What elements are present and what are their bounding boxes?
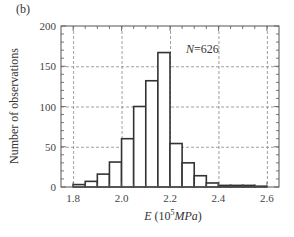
y-axis-label: Number of observations xyxy=(7,48,22,164)
y-tick-label: 150 xyxy=(40,60,57,72)
histogram-bar xyxy=(85,181,97,187)
x-tick-label: 2.4 xyxy=(212,192,226,204)
sample-size-annotation: N=626 xyxy=(186,42,219,57)
n-value: =626 xyxy=(194,42,219,56)
y-tick-label: 0 xyxy=(51,181,57,193)
x-axis-unit: MPa xyxy=(175,209,198,223)
x-tick-label: 1.8 xyxy=(66,192,80,204)
y-tick-label: 100 xyxy=(40,101,57,113)
histogram-bar xyxy=(158,53,170,187)
x-axis-unit-close: ) xyxy=(198,209,202,223)
histogram-chart: 1.82.02.22.42.6050100150200 xyxy=(0,0,294,237)
histogram-bar xyxy=(146,81,158,187)
x-tick-label: 2.2 xyxy=(163,192,177,204)
y-tick-label: 50 xyxy=(45,141,57,153)
x-axis-label: E (105MPa) xyxy=(144,208,202,224)
x-tick-label: 2.0 xyxy=(115,192,129,204)
x-axis-unit-prefix: (10 xyxy=(152,209,171,223)
histogram-bar xyxy=(109,162,121,187)
histogram-bar xyxy=(134,107,146,188)
histogram-bar xyxy=(206,183,218,187)
histogram-bar xyxy=(170,144,182,187)
histogram-bar xyxy=(97,174,109,187)
n-symbol: N xyxy=(186,42,194,56)
x-tick-label: 2.6 xyxy=(260,192,274,204)
histogram-bar xyxy=(194,176,206,187)
histogram-bar xyxy=(122,139,134,187)
y-tick-label: 200 xyxy=(40,20,57,32)
histogram-bar xyxy=(182,163,194,187)
